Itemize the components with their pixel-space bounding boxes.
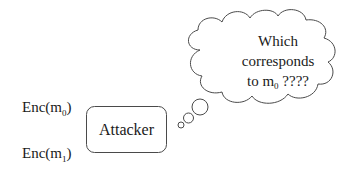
diagram-canvas: Enc(m0) Enc(m1) Attacker Which correspon… bbox=[0, 0, 347, 169]
enc-m1-label: Enc(m1) bbox=[22, 145, 71, 164]
cloud-line-1: Which bbox=[258, 33, 298, 49]
enc-m0-label: Enc(m0) bbox=[22, 99, 71, 118]
attacker-label: Attacker bbox=[99, 121, 155, 138]
thought-trail bbox=[178, 99, 208, 128]
cloud-line-3: to m0 ???? bbox=[247, 73, 309, 91]
thought-cloud: Which corresponds to m0 ???? bbox=[188, 10, 335, 104]
trail-circle-small bbox=[178, 122, 184, 128]
cloud-line-2: corresponds bbox=[242, 53, 315, 69]
trail-circle-large bbox=[192, 99, 208, 115]
trail-circle-medium bbox=[184, 113, 194, 123]
attacker-box: Attacker bbox=[87, 107, 167, 153]
